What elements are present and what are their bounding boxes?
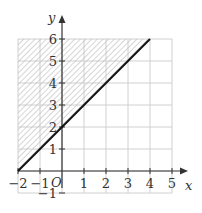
y-tick-label: 1 [49, 142, 57, 157]
x-tick-label: 4 [146, 176, 154, 191]
x-axis-arrow-icon [180, 168, 188, 175]
y-axis-label: y [47, 10, 56, 25]
x-tick-label: −2 [8, 176, 27, 191]
y-tick-label: 6 [49, 32, 57, 47]
x-tick-label: 1 [80, 176, 88, 191]
y-tick-label: 2 [49, 120, 57, 135]
x-tick-label: 2 [102, 176, 110, 191]
x-axis-label: x [185, 178, 193, 193]
y-tick-label: 3 [49, 98, 57, 113]
y-tick-label: 5 [49, 54, 57, 69]
x-tick-label: 3 [124, 176, 132, 191]
y-axis-arrow-icon [59, 15, 66, 23]
x-tick-labels: −2−112345 [8, 176, 176, 191]
origin-label: O [51, 175, 62, 190]
chart: −2−112345 −1123456 x y O [0, 0, 202, 213]
y-tick-label: 4 [49, 76, 57, 91]
x-tick-label: 5 [168, 176, 176, 191]
